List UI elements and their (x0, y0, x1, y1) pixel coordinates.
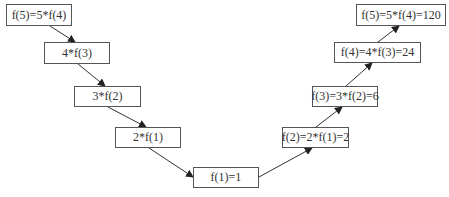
node-f5-call: f(5)=5*f(4) (6, 4, 72, 26)
arrow-n2-to-n3 (78, 64, 105, 86)
node-f1-base-case: f(1)=1 (193, 167, 259, 188)
arrow-n6-to-n7 (316, 107, 342, 127)
arrow-n3-to-n4 (108, 107, 146, 127)
node-4-times-f3: 4*f(3) (44, 42, 110, 64)
arrow-n4-to-n5 (149, 148, 193, 177)
diagram-canvas: f(5)=5*f(4) 4*f(3) 3*f(2) 2*f(1) f(1)=1 … (0, 0, 449, 197)
arrow-n7-to-n8 (346, 63, 372, 86)
node-f2-result: f(2)=2*f(1)=2 (282, 127, 349, 148)
arrow-n5-to-n6 (259, 148, 312, 177)
arrow-n8-to-n9 (378, 26, 399, 42)
node-f5-result: f(5)=5*f(4)=120 (356, 4, 446, 26)
node-2-times-f1: 2*f(1) (115, 127, 181, 148)
node-3-times-f2: 3*f(2) (74, 86, 141, 107)
arrow-n1-to-n2 (50, 26, 75, 42)
node-f3-result: f(3)=3*f(2)=6 (312, 86, 378, 107)
node-f4-result: f(4)=4*f(3)=24 (334, 42, 421, 63)
